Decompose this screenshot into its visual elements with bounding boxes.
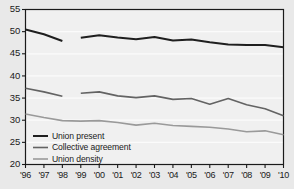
y-axis-label-25: 25 <box>0 137 20 147</box>
legend-label-union-present: Union present <box>52 131 104 141</box>
y-axis-label-20: 20 <box>0 159 20 169</box>
y-axis-label-35: 35 <box>0 93 20 103</box>
x-axis-label-10: '10 <box>273 170 294 180</box>
y-axis-label-30: 30 <box>0 115 20 125</box>
line-chart-plot <box>0 0 293 189</box>
y-axis-label-45: 45 <box>0 48 20 58</box>
y-axis-label-40: 40 <box>0 71 20 81</box>
legend-label-collective-agreement: Collective agreement <box>52 142 131 152</box>
chart-container: 2025303540455055'96'97'98'99'00'01'02'03… <box>0 0 293 189</box>
legend-label-union-density: Union density <box>52 154 103 164</box>
y-axis-label-50: 50 <box>0 26 20 36</box>
y-axis-label-55: 55 <box>0 4 20 14</box>
